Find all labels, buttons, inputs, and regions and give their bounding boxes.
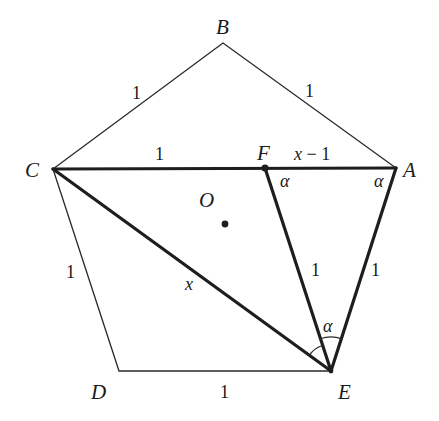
vertex-label-D: D <box>90 380 106 404</box>
length-label-FE: 1 <box>311 260 320 280</box>
vertex-label-B: B <box>216 15 229 39</box>
segment-AE <box>331 168 396 371</box>
length-label-BA: 1 <box>305 81 314 101</box>
pentagon-diagram: B C A F O D E 1 1 1 x − 1 1 x 1 1 1 α α … <box>0 0 439 421</box>
angle-arc-CEF <box>309 345 322 355</box>
segment-CA <box>53 168 396 169</box>
vertex-label-C: C <box>25 158 40 182</box>
length-label-FA-var: x <box>293 144 302 164</box>
angle-label-A: α <box>374 171 384 191</box>
angle-label-E: α <box>323 316 333 336</box>
length-label-CB: 1 <box>132 83 141 103</box>
segment-CE <box>53 169 331 371</box>
length-label-FA-rest: − 1 <box>302 144 330 164</box>
angle-label-F: α <box>280 171 290 191</box>
length-label-AE: 1 <box>371 260 380 280</box>
length-label-CF: 1 <box>155 144 164 164</box>
edge-CB-BA <box>53 43 396 169</box>
segment-FE <box>265 168 331 371</box>
vertex-label-O: O <box>199 188 214 212</box>
length-label-CD: 1 <box>66 262 75 282</box>
point-F <box>261 164 268 171</box>
length-label-DE: 1 <box>220 382 229 402</box>
vertex-label-F: F <box>256 141 270 165</box>
length-label-CE: x <box>184 274 193 294</box>
vertex-label-A: A <box>401 158 416 182</box>
angle-arc-FEA <box>320 337 341 339</box>
point-O-center <box>222 221 229 228</box>
length-label-FA: x − 1 <box>293 144 330 164</box>
vertex-label-E: E <box>337 380 351 404</box>
point-E <box>329 369 334 374</box>
